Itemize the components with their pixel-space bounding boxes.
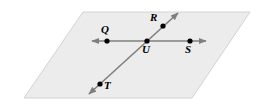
plane-surface <box>24 12 250 98</box>
point-label-Q: Q <box>101 24 109 35</box>
point-label-R: R <box>150 12 157 23</box>
geometry-canvas <box>0 0 267 106</box>
point-T <box>97 81 102 86</box>
point-Q <box>104 38 109 43</box>
point-R <box>160 23 165 28</box>
point-label-U: U <box>142 44 150 55</box>
geometry-figure: Q R U S T <box>0 0 267 106</box>
point-label-S: S <box>185 44 191 55</box>
point-label-T: T <box>104 80 111 91</box>
